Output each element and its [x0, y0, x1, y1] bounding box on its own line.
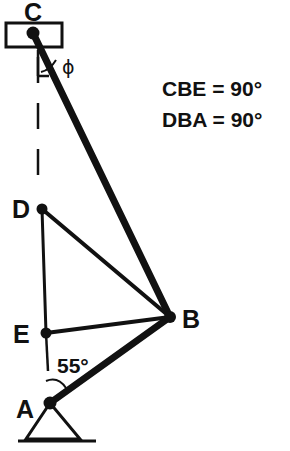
pivot-d — [37, 204, 48, 215]
label-b: B — [182, 305, 200, 333]
linkage-diagram: C D E A B ϕ 55° CBE = 90° DBA = 90° — [0, 0, 290, 451]
pivot-b — [164, 311, 176, 323]
note-dba: DBA = 90° — [162, 108, 262, 131]
angle-a-vertical-tick — [46, 333, 48, 371]
label-phi: ϕ — [62, 56, 75, 78]
label-d: D — [12, 195, 30, 223]
pivot-c — [27, 27, 40, 40]
angle-a-arc — [46, 380, 66, 388]
note-cbe: CBE = 90° — [162, 77, 262, 100]
member-de — [42, 209, 46, 333]
label-angle-a: 55° — [57, 354, 89, 377]
label-c: C — [24, 0, 42, 26]
label-e: E — [13, 320, 30, 348]
member-cb — [33, 33, 170, 317]
pivot-a — [44, 397, 57, 410]
label-a: A — [16, 395, 34, 423]
member-db — [42, 209, 170, 317]
linkage-svg: C D E A B ϕ 55° CBE = 90° DBA = 90° — [0, 0, 290, 451]
pivot-e — [41, 328, 52, 339]
